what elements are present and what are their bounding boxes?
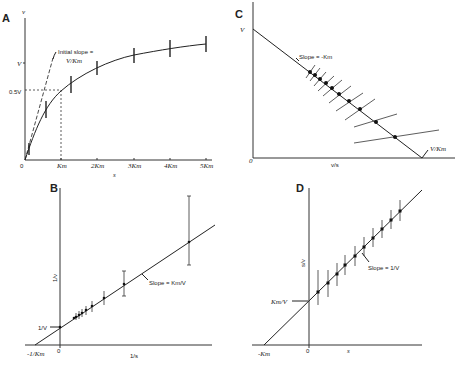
data-point [336, 273, 339, 276]
panel-a-xtick-4: 4Km [164, 162, 177, 170]
data-point [347, 99, 351, 103]
panel-b-annotation: Slope = Km/V [149, 280, 186, 286]
panel-c-y-intercept-label: V [240, 26, 245, 34]
panel-a-annotation-1: Initial slope = [58, 49, 94, 55]
data-point [85, 309, 88, 312]
data-point [390, 219, 393, 222]
panel-b-x-axis-label: 1/s [130, 353, 138, 359]
data-point [358, 107, 362, 111]
data-point [374, 120, 378, 124]
data-point [354, 255, 357, 258]
data-point [81, 312, 84, 315]
panel-d-y-intercept-label: Km/V [270, 298, 288, 306]
data-point [313, 73, 317, 77]
data-point [337, 92, 341, 96]
data-point [73, 317, 76, 320]
panel-c-x-axis-label: v/s [331, 162, 339, 168]
panel-b-x-intercept-label: -1/Km [27, 350, 45, 358]
data-point [123, 283, 126, 286]
panel-a-xtick-5: 5Km [200, 162, 213, 170]
data-point [393, 135, 397, 139]
panel-a-xtick-1: Km [56, 162, 67, 170]
panel-c-annotation: Slope = -Km [299, 54, 332, 60]
y-intercept-point [59, 326, 62, 329]
panel-a-annotation-2: V/Km [66, 57, 82, 65]
panel-b: B 1/v 0 1/s 1/V -1/Km Slope = Km/V [25, 182, 215, 359]
figure: A v V 0.5V 0 Km 2Km 3Km 4Km 5Km s Initia… [0, 0, 460, 368]
panel-a-origin: 0 [20, 163, 24, 169]
panel-a-x-axis-label: s [113, 171, 116, 179]
data-point [317, 291, 320, 294]
panel-d-x-axis-label: s [347, 347, 350, 355]
panel-d: D s/v 0 s Km/V -Km Slope = 1/V [252, 182, 422, 358]
lineweaver-burk-line [35, 225, 215, 345]
panel-c-x-intercept-label: V/Km [430, 145, 446, 153]
panel-a-y-axis-label: v [22, 8, 26, 16]
panel-a-ytick-v: V [17, 60, 22, 68]
panel-c-origin: 0 [249, 157, 253, 165]
panel-d-label: D [296, 182, 304, 194]
panel-a-xtick-2: 2Km [91, 162, 104, 170]
panel-d-annotation: Slope = 1/V [368, 265, 399, 271]
panel-b-origin: 0 [57, 348, 61, 354]
panel-c: C V 0 v/s Slope = -Km V/Km [235, 2, 455, 168]
panel-b-y-intercept-label: 1/V [38, 325, 47, 331]
panel-b-label: B [50, 182, 58, 194]
data-point [91, 305, 94, 308]
panel-a: A v V 0.5V 0 Km 2Km 3Km 4Km 5Km s Initia… [2, 8, 213, 179]
annotation-arrow [422, 150, 428, 158]
panel-d-y-axis-label: s/v [300, 259, 306, 267]
data-point [308, 70, 312, 74]
data-point [381, 228, 384, 231]
panel-a-xtick-3: 3Km [127, 162, 141, 170]
data-point [318, 77, 322, 81]
error-bars [76, 196, 191, 320]
data-point [324, 81, 328, 85]
panel-d-origin: 0 [306, 348, 310, 354]
data-point [327, 282, 330, 285]
data-point [188, 241, 191, 244]
error-bars [306, 65, 439, 143]
data-point [363, 246, 366, 249]
data-point [399, 210, 402, 213]
panel-a-label: A [2, 12, 10, 24]
annotation-arrow [142, 274, 148, 280]
annotation-arrow [362, 253, 369, 262]
data-point [330, 86, 334, 90]
data-point [78, 314, 81, 317]
panel-d-x-intercept-label: -Km [258, 350, 270, 358]
data-point [344, 264, 347, 267]
annotation-arrow [53, 52, 56, 59]
data-point [372, 237, 375, 240]
panel-a-ytick-half: 0.5V [9, 89, 21, 95]
data-point [103, 297, 106, 300]
panel-b-y-axis-label: 1/v [52, 274, 58, 282]
panel-c-label: C [235, 8, 243, 20]
